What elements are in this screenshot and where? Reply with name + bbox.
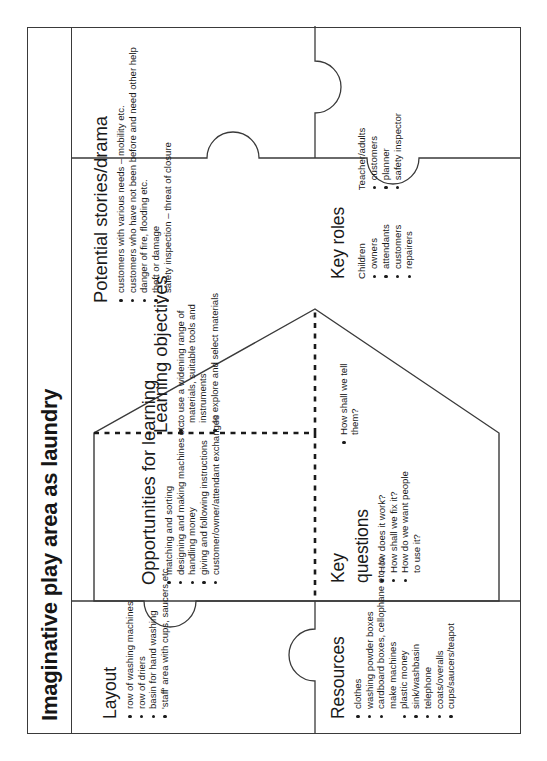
list-item: row of washing machines bbox=[124, 534, 135, 719]
list-item: telephone bbox=[422, 544, 433, 719]
list-item: How shall we tell them? bbox=[338, 350, 360, 445]
diagram-title-bar: Imaginative play area as laundry bbox=[28, 28, 72, 733]
page-title: Imaginative play area as laundry bbox=[37, 389, 63, 721]
key-questions-list-left: How does it work? How shall we fix it? H… bbox=[376, 463, 422, 583]
list-item: safety inspection – threat of closure bbox=[162, 23, 173, 303]
diagram-canvas: Imaginative play area as laundry bbox=[0, 0, 547, 761]
list-item: customers with various needs – mobility … bbox=[115, 23, 126, 303]
key-questions-heading-line2: questions bbox=[352, 463, 373, 583]
centre-key-questions-overflow: How shall we tell them? bbox=[338, 350, 361, 445]
stories-heading: Potential stories/drama bbox=[90, 23, 112, 303]
key-questions-list-right: How shall we tell them? bbox=[338, 350, 360, 445]
objectives-list: to use a widening range of materials, su… bbox=[175, 283, 220, 433]
list-item: danger of fire, flooding etc. bbox=[138, 23, 149, 303]
list-item: customers bbox=[392, 224, 403, 279]
piece-key-roles: Key roles Children owners attendants cus… bbox=[328, 29, 415, 279]
list-item: cups/saucers/teapot bbox=[445, 544, 456, 719]
rotated-diagram-wrapper: Imaginative play area as laundry bbox=[13, 13, 534, 748]
list-item: safety inspector bbox=[392, 113, 403, 190]
key-roles-group-children: Children owners attendants customers rep… bbox=[352, 224, 415, 279]
diagram-sheet: Imaginative play area as laundry bbox=[27, 27, 521, 734]
layout-heading: Layout bbox=[100, 534, 121, 719]
key-questions-heading-line1: Key bbox=[328, 463, 349, 583]
key-roles-group-teacher-adults: Teacher/adults customers planner safety … bbox=[352, 113, 415, 190]
group-label: Teacher/adults bbox=[356, 113, 367, 190]
list-item: repairers bbox=[403, 224, 414, 279]
objectives-heading: Learning objectives bbox=[150, 283, 172, 433]
list-item: How do we want people to use it? bbox=[399, 463, 421, 583]
list-item: to use a widening range of materials, su… bbox=[175, 283, 209, 433]
list-item: theft or damage bbox=[150, 23, 161, 303]
divider-horizontal-left bbox=[289, 601, 315, 733]
list-item: attendants bbox=[380, 224, 391, 279]
centre-key-questions: Key questions How does it work? How shal… bbox=[328, 463, 422, 583]
group-label: Children bbox=[356, 224, 367, 279]
list-item: customers bbox=[368, 113, 379, 190]
list-item: customers who have not been before and n… bbox=[127, 23, 138, 303]
list-item: planner bbox=[380, 113, 391, 190]
key-roles-heading: Key roles bbox=[328, 29, 349, 279]
list-item: How does it work? bbox=[376, 463, 387, 583]
list-item: coats/overalls bbox=[434, 544, 445, 719]
list-item: to explore and select materials bbox=[209, 283, 220, 433]
piece-potential-stories: Potential stories/drama customers with v… bbox=[90, 23, 174, 303]
centre-learning-objectives: Learning objectives to use a widening ra… bbox=[150, 283, 221, 433]
list-item: owners bbox=[368, 224, 379, 279]
stories-list: customers with various needs – mobility … bbox=[115, 23, 173, 303]
list-item: How shall we fix it? bbox=[388, 463, 399, 583]
children-roles-list: owners attendants customers repairers bbox=[368, 224, 414, 279]
teacher-adults-roles-list: customers planner safety inspector bbox=[368, 113, 403, 190]
